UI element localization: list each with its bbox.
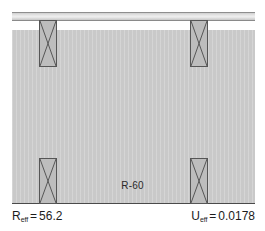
effective-u-equals: =: [209, 209, 216, 223]
results-row: Reff=56.2 Ueff=0.0178: [12, 209, 255, 223]
effective-r-subscript: eff: [21, 216, 28, 223]
effective-u-subscript: eff: [200, 216, 207, 223]
effective-r-symbol: R: [12, 209, 21, 223]
cavity-r-value-label: R-60: [0, 180, 265, 191]
effective-u-value: Ueff=0.0178: [191, 209, 255, 223]
effective-r-equals: =: [30, 209, 37, 223]
effective-u-symbol: U: [191, 209, 200, 223]
assembly-cross-section-figure: R-60 Reff=56.2 Ueff=0.0178: [0, 0, 265, 231]
effective-r-number: 56.2: [39, 209, 62, 223]
stud-top-left: [39, 20, 57, 67]
stud-top-right: [190, 20, 208, 67]
effective-r-value: Reff=56.2: [12, 209, 62, 223]
effective-u-number: 0.0178: [218, 209, 255, 223]
stud-x-brace-icon: [40, 21, 56, 66]
stud-x-brace-icon: [191, 21, 207, 66]
